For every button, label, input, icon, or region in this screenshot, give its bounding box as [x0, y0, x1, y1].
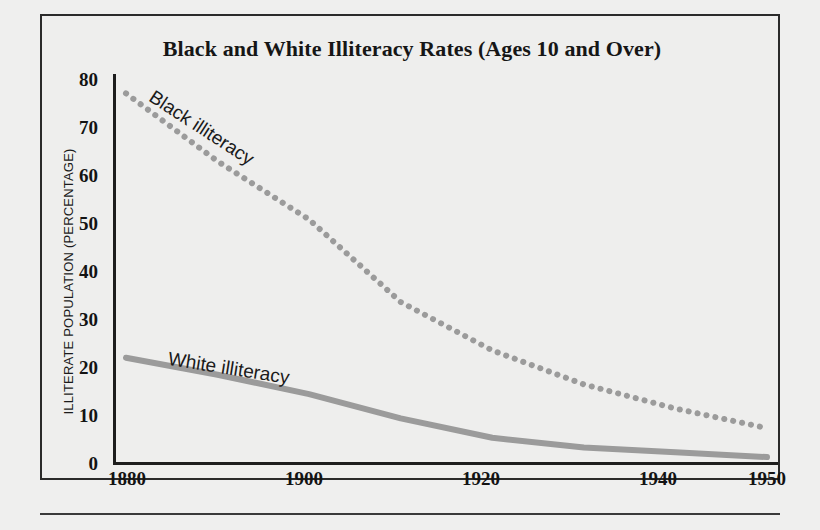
bottom-rule [40, 513, 780, 515]
page-background: Black and White Illiteracy Rates (Ages 1… [0, 0, 820, 530]
plot-area: ILLITERATE POPULATION (PERCENTAGE) 0 10 … [42, 16, 778, 478]
figure-frame: Black and White Illiteracy Rates (Ages 1… [40, 14, 780, 480]
series-layer [42, 16, 778, 478]
